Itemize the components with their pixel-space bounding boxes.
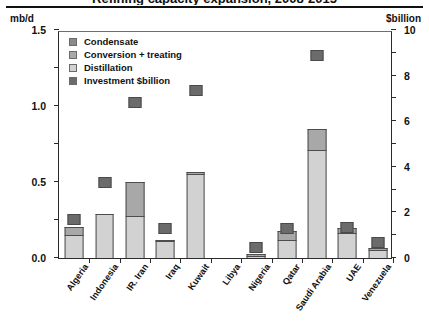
x-axis-label: Iraq — [163, 262, 181, 281]
bar-group[interactable] — [89, 32, 119, 258]
bar-group[interactable] — [211, 32, 241, 258]
bar-stack[interactable] — [65, 227, 84, 258]
bar-group[interactable] — [59, 32, 89, 258]
bar-segment-conv[interactable] — [308, 129, 327, 150]
investment-marker[interactable] — [128, 97, 141, 108]
y-axis-right-tick: 4 — [391, 211, 396, 212]
investment-marker[interactable] — [280, 223, 293, 234]
y-axis-right-tick: 8 — [391, 166, 396, 167]
investment-marker[interactable] — [250, 242, 263, 253]
right-axis-unit-label: $billion — [386, 13, 421, 24]
y-axis-right-tick: 18 — [391, 52, 396, 53]
y-axis-left-tick-label: 0.0 — [31, 252, 46, 264]
y-axis-left-tick-label: 1.0 — [31, 100, 46, 112]
bar-segment-dist[interactable] — [95, 214, 114, 258]
bar-group[interactable] — [241, 32, 271, 258]
x-axis-label: Algeria — [64, 262, 90, 293]
investment-marker[interactable] — [371, 237, 384, 248]
y-axis-right-tick: 16 — [391, 75, 396, 76]
bar-segment-dist[interactable] — [125, 216, 144, 258]
bar-stack[interactable] — [125, 182, 144, 258]
investment-marker[interactable] — [159, 223, 172, 234]
bar-stack[interactable] — [368, 248, 387, 258]
bar-segment-dist[interactable] — [368, 250, 387, 258]
y-axis-left-tick-label: 0.5 — [31, 176, 46, 188]
y-axis-right-tick: 6 — [391, 189, 396, 190]
header-divider — [6, 6, 423, 8]
y-axis-right-tick-label: 2 — [404, 206, 410, 218]
x-axis-label: Nigeria — [246, 262, 272, 293]
x-axis-label: Libya — [220, 262, 242, 287]
y-axis-right-tick: 12 — [391, 120, 396, 121]
y-axis-left-tick: 1.5 — [54, 143, 59, 144]
y-axis-right-tick-label: 8 — [404, 70, 410, 82]
plot-area: CondensateConversion + treatingDistillat… — [58, 31, 392, 259]
x-axis-label: Venezuela — [360, 262, 393, 303]
bar-stack[interactable] — [277, 231, 296, 258]
y-axis-right-tick-label: 10 — [404, 24, 416, 36]
x-axis-label: Kuwait — [186, 262, 211, 292]
y-axis-right-tick: 0 — [391, 257, 396, 258]
bar-group[interactable] — [180, 32, 210, 258]
x-axis-label: Qatar — [281, 262, 303, 287]
x-axis-label: IR. Iran — [125, 262, 151, 293]
bar-segment-dist[interactable] — [308, 150, 327, 258]
investment-marker[interactable] — [341, 222, 354, 233]
bar-segment-dist[interactable] — [156, 241, 175, 258]
bar-stack[interactable] — [247, 254, 266, 258]
y-axis-right-tick: 20 — [391, 29, 396, 30]
bar-group[interactable] — [272, 32, 302, 258]
bar-stack[interactable] — [95, 214, 114, 258]
y-axis-right-tick-label: 4 — [404, 161, 410, 173]
bar-stack[interactable] — [308, 129, 327, 258]
bar-segment-dist[interactable] — [277, 240, 296, 258]
bar-group[interactable] — [150, 32, 180, 258]
bar-group[interactable] — [332, 32, 362, 258]
bar-segment-dist[interactable] — [247, 256, 266, 258]
y-axis-right-tick: 10 — [391, 143, 396, 144]
x-axis-labels: AlgeriaIndonesiaIR. IranIraqKuwaitLibyaN… — [58, 262, 392, 320]
x-axis-label: UAE — [344, 262, 363, 283]
y-axis-right-tick-label: 0 — [404, 252, 410, 264]
bar-segment-dist[interactable] — [338, 233, 357, 258]
y-axis-right-tick-label: 6 — [404, 115, 410, 127]
x-axis-tick — [393, 258, 394, 263]
bar-series-container — [59, 32, 391, 258]
bar-group[interactable] — [120, 32, 150, 258]
bar-stack[interactable] — [186, 172, 205, 258]
bar-segment-conv[interactable] — [125, 182, 144, 216]
investment-marker[interactable] — [189, 85, 202, 96]
investment-marker[interactable] — [98, 177, 111, 188]
chart-title: Refining capacity expansion, 2008-2015 — [6, 0, 423, 5]
bar-group[interactable] — [302, 32, 332, 258]
bar-group[interactable] — [363, 32, 393, 258]
y-axis-left-tick: 3.0 — [54, 29, 59, 30]
investment-marker[interactable] — [311, 50, 324, 61]
investment-marker[interactable] — [68, 214, 81, 225]
bar-segment-dist[interactable] — [186, 174, 205, 258]
bar-segment-conv[interactable] — [65, 227, 84, 235]
x-axis-label: Indonesia — [88, 262, 120, 302]
left-axis-unit-label: mb/d — [10, 13, 34, 24]
y-axis-right-tick: 2 — [391, 234, 396, 235]
y-axis-left-tick: 2.5 — [54, 67, 59, 68]
bar-stack[interactable] — [156, 240, 175, 258]
y-axis-left-tick-label: 1.5 — [31, 24, 46, 36]
y-axis-left-tick: 2.0 — [54, 105, 59, 106]
y-axis-left-tick: 1.0 — [54, 181, 59, 182]
bar-segment-dist[interactable] — [65, 235, 84, 258]
y-axis-left-tick: 0.0 — [54, 257, 59, 258]
y-axis-right-tick: 14 — [391, 97, 396, 98]
y-axis-left-tick: 0.5 — [54, 219, 59, 220]
